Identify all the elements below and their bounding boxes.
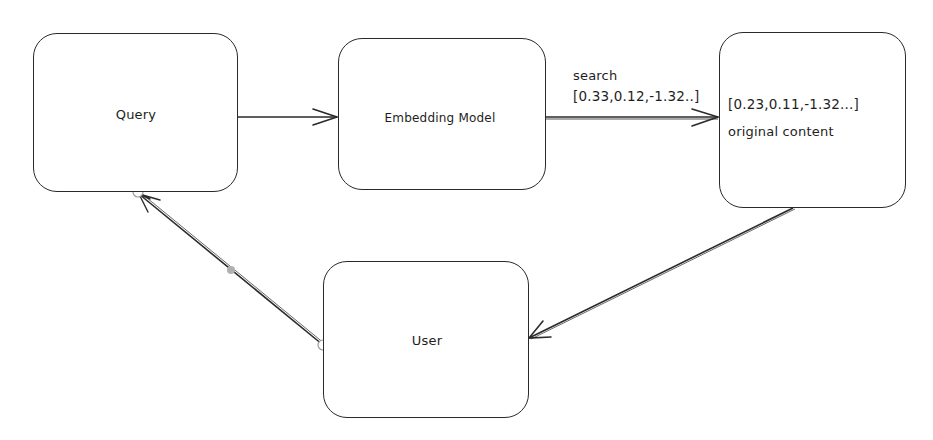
midpoint-handle[interactable] (227, 266, 235, 274)
arrow-query-to-embedding[interactable] (238, 109, 337, 125)
node-embedding-model-label: Embedding Model (385, 111, 496, 125)
edge-search-label-line-1: search (573, 68, 617, 83)
node-user-label: User (412, 333, 442, 348)
node-vector-store-line-1: [0.23,0.11,-1.32...] (728, 96, 859, 112)
node-vector-store-line-2: original content (728, 124, 834, 139)
arrow-store-to-user[interactable] (529, 208, 795, 339)
node-vector-store[interactable] (719, 32, 906, 208)
node-query-label: Query (116, 107, 157, 122)
arrow-embedding-to-store[interactable] (546, 109, 718, 126)
arrow-user-to-query[interactable] (133, 187, 328, 350)
edge-search-label-line-2: [0.33,0.12,-1.32..] (573, 88, 700, 104)
